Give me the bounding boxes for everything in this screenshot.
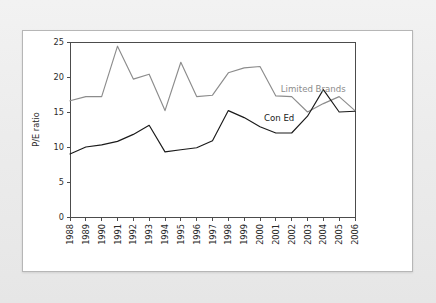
x-tick-label: 1998 (223, 224, 233, 245)
x-tick-label: 2006 (350, 224, 360, 245)
series-line-limited-brands (70, 46, 355, 112)
chart-series (70, 46, 355, 154)
x-tick-label: 1999 (239, 224, 249, 245)
x-tick-label: 2000 (255, 224, 265, 245)
x-tick-label: 1995 (176, 224, 186, 245)
y-axis-title-text: P/E ratio (31, 112, 41, 146)
series-line-con-ed (70, 90, 355, 154)
chart-figure-panel: 0510152025 19881989199019911992199319941… (22, 30, 413, 272)
x-tick-label: 2005 (334, 224, 344, 245)
x-tick-label: 2001 (271, 224, 281, 245)
y-tick-label: 25 (54, 37, 64, 47)
x-tick-label: 1988 (65, 224, 75, 245)
x-tick-label: 1994 (160, 224, 170, 245)
series-labels: Limited BrandsCon Ed (264, 84, 346, 123)
x-tick-label: 2003 (303, 224, 313, 245)
pe-ratio-line-chart: 0510152025 19881989199019911992199319941… (23, 31, 414, 273)
series-label-con-ed: Con Ed (264, 113, 294, 123)
y-tick-label: 15 (54, 107, 64, 117)
x-tick-label: 1991 (113, 224, 123, 245)
y-tick-label: 0 (59, 212, 64, 222)
series-label-limited-brands: Limited Brands (281, 84, 346, 94)
x-tick-label: 1989 (81, 224, 91, 245)
y-axis-ticks: 0510152025 (54, 37, 70, 222)
x-tick-label: 2004 (318, 224, 328, 245)
x-tick-label: 1992 (128, 224, 138, 245)
y-tick-label: 5 (59, 177, 64, 187)
y-axis-title: P/E ratio (31, 112, 41, 146)
x-axis-ticks: 1988198919901991199219931994199519961997… (65, 217, 360, 245)
y-tick-label: 10 (54, 142, 64, 152)
x-tick-label: 1990 (97, 224, 107, 245)
x-tick-label: 1996 (192, 224, 202, 245)
x-tick-label: 1997 (208, 224, 218, 245)
y-tick-label: 20 (54, 72, 64, 82)
chart-axes (70, 42, 355, 217)
x-tick-label: 2002 (287, 224, 297, 245)
x-tick-label: 1993 (144, 224, 154, 245)
